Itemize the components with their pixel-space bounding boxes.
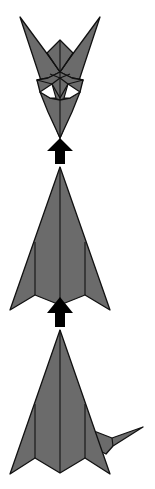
diagram-canvas [0, 0, 155, 489]
arrow-up-icon [47, 138, 73, 164]
step-kite-with-tail [10, 330, 143, 474]
step-kite-base [10, 167, 110, 310]
step-final-head [20, 17, 100, 138]
origami-diagram [0, 0, 155, 489]
